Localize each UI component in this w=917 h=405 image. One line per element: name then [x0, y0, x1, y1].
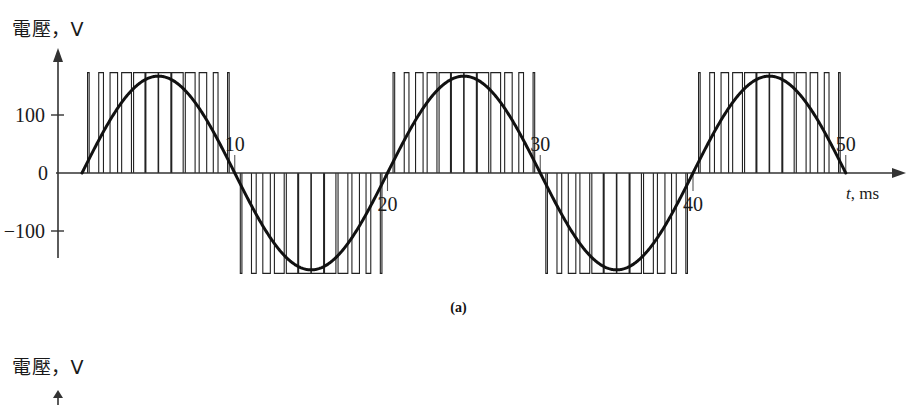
- pwm-figure: −10001001020304050t, ms: [0, 0, 917, 405]
- panel-b-y-axis-label: 電壓，V: [12, 352, 84, 379]
- panel-b-plot: [53, 390, 63, 405]
- y-tick-label: 0: [38, 162, 48, 184]
- x-tick-label: 20: [378, 193, 398, 215]
- figure-caption-a: (a): [0, 300, 917, 316]
- x-tick-label: 50: [836, 133, 856, 155]
- y-tick-label: −100: [4, 220, 45, 242]
- panel-a-plot: −10001001020304050t, ms: [4, 48, 906, 273]
- panel-b-y-axis-arrowhead: [53, 390, 63, 398]
- x-tick-label: 40: [683, 193, 703, 215]
- y-tick-label: 100: [15, 104, 45, 126]
- x-axis-title: t, ms: [846, 184, 879, 203]
- x-tick-label: 10: [225, 133, 245, 155]
- y-axis-arrowhead: [53, 48, 63, 62]
- x-axis-arrowhead: [892, 168, 906, 178]
- x-tick-label: 30: [530, 133, 550, 155]
